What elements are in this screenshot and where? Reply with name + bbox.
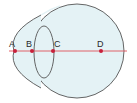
eye-diagram: A B C D bbox=[0, 0, 137, 103]
point-c bbox=[51, 49, 55, 53]
point-b bbox=[30, 49, 34, 53]
cornea bbox=[13, 15, 41, 88]
point-d bbox=[99, 49, 103, 53]
label-d: D bbox=[97, 39, 104, 49]
eye-diagram-svg: A B C D bbox=[0, 0, 137, 103]
label-c: C bbox=[54, 39, 61, 49]
label-a: A bbox=[9, 39, 15, 49]
point-a bbox=[13, 49, 17, 53]
label-b: B bbox=[26, 39, 32, 49]
